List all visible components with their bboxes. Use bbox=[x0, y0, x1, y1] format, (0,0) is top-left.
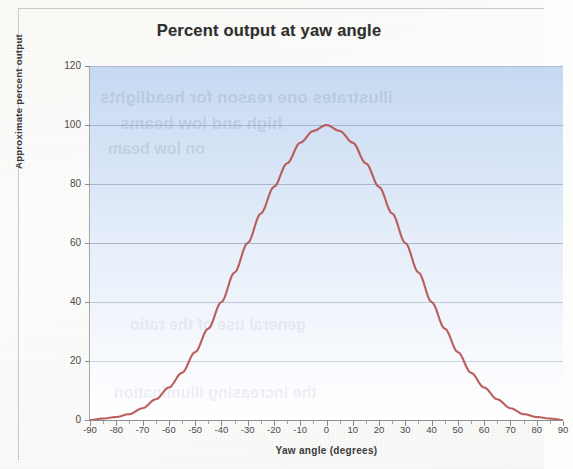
x-tick-mark-70 bbox=[510, 421, 511, 426]
y-tick-label-20: 20 bbox=[41, 355, 81, 366]
y-tick-label-80: 80 bbox=[41, 178, 81, 189]
x-tick-mark-40 bbox=[432, 421, 433, 426]
x-tick-mark--20 bbox=[274, 421, 275, 426]
x-tick-mark--40 bbox=[221, 421, 222, 426]
plot-area: illustrates one reason for headlights hi… bbox=[90, 66, 563, 420]
x-minor-tick--65 bbox=[156, 421, 157, 424]
x-minor-tick-45 bbox=[445, 421, 446, 424]
x-tick-mark-60 bbox=[484, 421, 485, 426]
x-minor-tick--5 bbox=[313, 421, 314, 424]
x-tick-mark-20 bbox=[379, 421, 380, 426]
x-tick-mark-90 bbox=[563, 421, 564, 426]
y-tick-mark-20 bbox=[85, 361, 90, 362]
y-tick-label-100: 100 bbox=[41, 119, 81, 130]
x-minor-tick-65 bbox=[497, 421, 498, 424]
x-minor-tick--25 bbox=[261, 421, 262, 424]
data-series-line bbox=[90, 66, 563, 420]
y-tick-label-40: 40 bbox=[41, 296, 81, 307]
y-tick-mark-40 bbox=[85, 302, 90, 303]
x-tick-mark--30 bbox=[248, 421, 249, 426]
x-tick-mark-30 bbox=[405, 421, 406, 426]
x-minor-tick-85 bbox=[550, 421, 551, 424]
y-tick-mark-120 bbox=[85, 66, 90, 67]
chart-title: Percent output at yaw angle bbox=[19, 21, 519, 40]
x-minor-tick--75 bbox=[129, 421, 130, 424]
x-axis-title: Yaw angle (degrees) bbox=[90, 445, 563, 456]
y-tick-mark-60 bbox=[85, 243, 90, 244]
x-tick-mark-10 bbox=[353, 421, 354, 426]
y-tick-label-60: 60 bbox=[41, 237, 81, 248]
x-minor-tick-75 bbox=[524, 421, 525, 424]
x-tick-mark-0 bbox=[327, 421, 328, 426]
x-minor-tick--85 bbox=[103, 421, 104, 424]
x-tick-mark--90 bbox=[90, 421, 91, 426]
y-tick-mark-100 bbox=[85, 125, 90, 126]
x-minor-tick-35 bbox=[418, 421, 419, 424]
x-tick-mark-80 bbox=[537, 421, 538, 426]
y-tick-mark-80 bbox=[85, 184, 90, 185]
x-tick-label-90: 90 bbox=[548, 424, 573, 435]
x-tick-mark--70 bbox=[143, 421, 144, 426]
x-minor-tick--45 bbox=[208, 421, 209, 424]
x-tick-mark--50 bbox=[195, 421, 196, 426]
y-axis-title: Approximate percent output bbox=[13, 0, 24, 169]
x-minor-tick--15 bbox=[287, 421, 288, 424]
x-minor-tick-5 bbox=[340, 421, 341, 424]
x-tick-mark-50 bbox=[458, 421, 459, 426]
x-tick-mark--10 bbox=[300, 421, 301, 426]
x-minor-tick-55 bbox=[471, 421, 472, 424]
x-minor-tick--55 bbox=[182, 421, 183, 424]
x-tick-mark--60 bbox=[169, 421, 170, 426]
x-minor-tick-25 bbox=[392, 421, 393, 424]
x-minor-tick-15 bbox=[366, 421, 367, 424]
chart-frame: Percent output at yaw angle illustrates … bbox=[18, 8, 544, 460]
x-minor-tick--35 bbox=[235, 421, 236, 424]
x-tick-mark--80 bbox=[116, 421, 117, 426]
y-tick-label-120: 120 bbox=[41, 60, 81, 71]
